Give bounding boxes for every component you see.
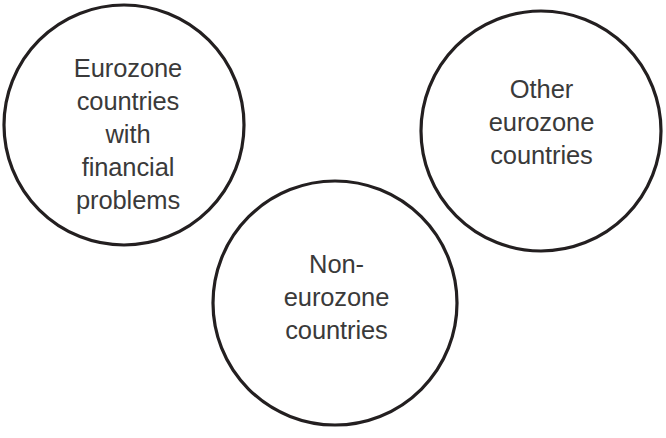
circle-other-eurozone[interactable] — [421, 11, 661, 251]
circle-non-eurozone[interactable] — [213, 181, 457, 425]
diagram-canvas: Eurozone countries with financial proble… — [0, 0, 666, 438]
circle-eurozone-problems[interactable] — [4, 5, 244, 245]
circles-layer — [0, 0, 666, 438]
